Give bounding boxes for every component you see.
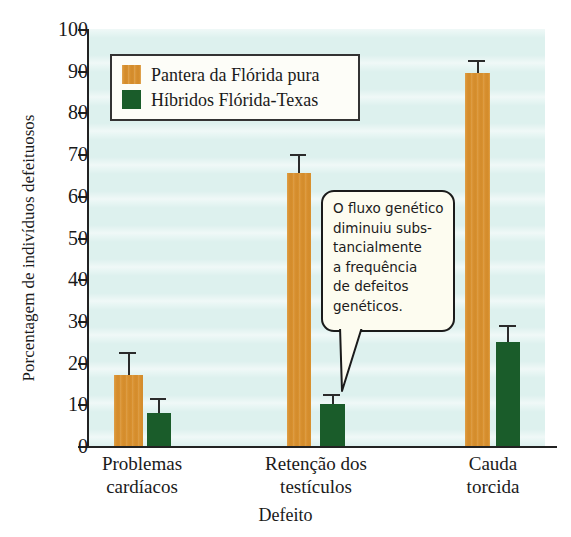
y-tick-label: 60 (48, 186, 88, 206)
y-tick-label: 50 (48, 228, 88, 248)
bar-pure-cauda-torcida (465, 73, 490, 446)
y-tick-label: 80 (48, 102, 88, 122)
bar-pure-problemas-cardiacos (114, 375, 143, 446)
y-axis-title: Porcentagem de indivíduos defeituosos (19, 83, 39, 413)
y-tick-label: 40 (48, 269, 88, 289)
y-tick-label: 10 (48, 394, 88, 414)
bar-hybrid-retencao-testiculos (320, 404, 345, 446)
legend: Pantera da Flórida pura Híbridos Flórida… (110, 54, 360, 121)
x-tick-label-retencao-testiculos: Retenção dos testículos (246, 452, 386, 498)
legend-item-pure-panther: Pantera da Flórida pura (122, 62, 348, 87)
x-tick-label-cauda-torcida: Cauda torcida (423, 452, 563, 498)
x-tick-label-problemas-cardiacos: Problemas cardíacos (72, 452, 212, 498)
bar-chart: 100 90 80 70 60 50 40 30 (0, 0, 571, 537)
annotation-callout-text: O fluxo genético diminuiu subs- tancialm… (333, 199, 445, 316)
annotation-callout: O fluxo genético diminuiu subs- tancialm… (321, 190, 455, 332)
y-tick-label: 70 (48, 144, 88, 164)
y-tick-label: 90 (48, 61, 88, 81)
error-cap-pure-cauda-torcida (468, 60, 485, 62)
bar-hybrid-problemas-cardiacos (147, 413, 171, 446)
legend-label-pure-panther: Pantera da Flórida pura (151, 65, 319, 85)
x-axis-title: Defeito (0, 505, 571, 526)
error-bar-pure-retencao-testiculos (298, 154, 300, 173)
x-axis-line (87, 446, 557, 448)
error-bar-pure-problemas-cardiacos (128, 352, 130, 375)
legend-swatch-icon-pure-panther (122, 65, 141, 84)
bar-pure-retencao-testiculos (287, 173, 311, 446)
error-cap-pure-retencao-testiculos (290, 154, 306, 156)
error-bar-hybrid-problemas-cardiacos (158, 398, 160, 413)
error-bar-hybrid-cauda-torcida (507, 325, 509, 342)
y-tick-label: 100 (48, 19, 88, 39)
legend-swatch-icon-hybrid (122, 90, 141, 109)
legend-item-hybrid: Híbridos Flórida-Texas (122, 87, 348, 112)
y-tick-label: 20 (48, 353, 88, 373)
error-cap-hybrid-problemas-cardiacos (150, 398, 166, 400)
error-cap-pure-problemas-cardiacos (119, 352, 136, 354)
error-cap-hybrid-retencao-testiculos (323, 394, 340, 396)
legend-label-hybrid: Híbridos Flórida-Texas (151, 90, 318, 110)
error-cap-hybrid-cauda-torcida (499, 325, 516, 327)
bar-hybrid-cauda-torcida (496, 342, 520, 446)
y-tick-label: 30 (48, 311, 88, 331)
